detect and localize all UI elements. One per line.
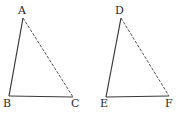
vertex-label-b: B	[3, 97, 11, 110]
vertex-label-d: D	[115, 4, 124, 17]
triangle-abc: A B C	[3, 4, 79, 110]
edge-df	[121, 18, 169, 96]
vertex-label-c: C	[71, 97, 79, 110]
vertex-label-f: F	[165, 97, 173, 110]
vertex-label-a: A	[17, 4, 27, 17]
two-triangles-diagram: A B C D E F	[0, 0, 181, 114]
edge-ac	[23, 18, 73, 97]
edge-de	[106, 18, 121, 97]
edge-bc	[9, 96, 73, 97]
triangle-def: D E F	[100, 4, 173, 110]
vertex-label-e: E	[100, 97, 108, 110]
edge-ef	[106, 96, 169, 97]
edge-ab	[9, 18, 23, 96]
